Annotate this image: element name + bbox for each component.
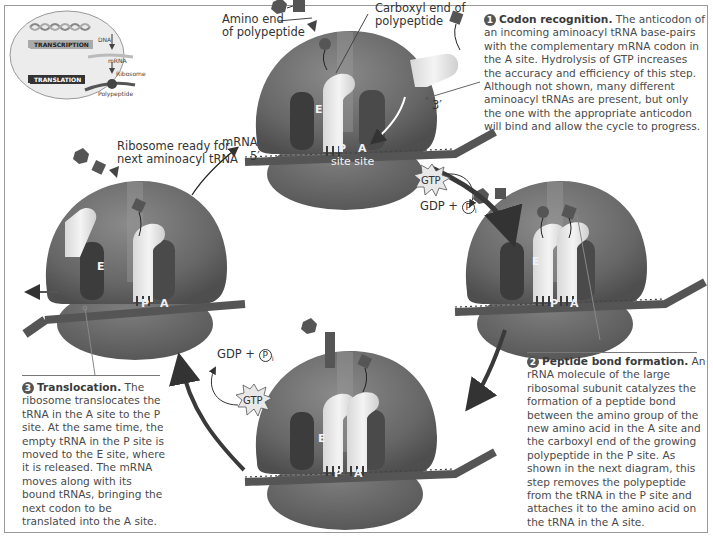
codon-recognition-pointer [427, 82, 480, 98]
bottom-p-site: P [334, 467, 342, 480]
bottom-a-site: A [354, 467, 363, 480]
top-e-site: E [315, 103, 323, 116]
step3-number-badge: 3 [22, 382, 34, 394]
inset-ribosome-label: Ribosome [116, 70, 146, 77]
three-prime-label: 3′ [432, 99, 442, 112]
inset-dna-label: DNA [98, 36, 111, 43]
gtp-label-bottom: GTP [243, 394, 263, 407]
inset-overview [10, 11, 135, 99]
right-a-site: A [570, 297, 579, 310]
gtp-star-bottom [211, 368, 272, 416]
left-a-site: A [160, 297, 169, 310]
step3-rule [22, 375, 160, 376]
step3-translocation-caption: 3Translocation. The ribosome translocate… [22, 381, 167, 528]
step2-peptide-bond-caption: 2Peptide bond formation. An rRNA molecul… [527, 355, 709, 529]
gtp-label-top: GTP [421, 174, 441, 187]
left-p-site: P [141, 297, 149, 310]
inset-translation-tag: TRANSLATION [30, 75, 85, 84]
top-a-site: A [358, 142, 367, 155]
gdp-pi-label-bottom: GDP + Pi [217, 348, 274, 366]
gdp-pi-label-top: GDP + Pi [420, 200, 477, 218]
right-e-site: E [532, 255, 540, 268]
carboxyl-end-label: Carboxyl end of polypeptide [375, 2, 466, 28]
top-site-labels: site site [331, 155, 374, 168]
five-prime-label: 5′ [250, 150, 260, 163]
right-p-site: P [550, 297, 558, 310]
inset-mrna-label: mRNA [108, 57, 127, 64]
step2-number-badge: 2 [527, 356, 539, 368]
inset-transcription-tag: TRANSCRIPTION [30, 40, 93, 49]
amino-end-label: Amino end of polypeptide [222, 13, 305, 39]
step2-rule [527, 352, 697, 353]
ribosome-step3 [245, 318, 495, 530]
step1-number-badge: 1 [484, 14, 496, 26]
ribosome-translocated [25, 148, 245, 360]
inset-polypeptide-label: Polypeptide [98, 90, 133, 97]
left-e-site: E [97, 260, 105, 273]
step1-codon-recognition-caption: 1Codon recognition. The anticodon of an … [484, 13, 706, 134]
top-p-site: P [338, 142, 346, 155]
bottom-e-site: E [318, 432, 326, 445]
ribosome-ready-label: Ribosome ready for next aminoacyl tRNA [117, 140, 238, 166]
